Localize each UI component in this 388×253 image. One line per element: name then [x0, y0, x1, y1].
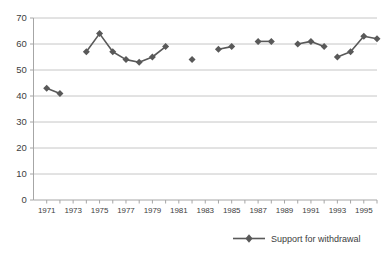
legend-label-support-for-withdrawal: Support for withdrawal	[271, 234, 361, 244]
chart-container: 010203040506070 197119731975197719791981…	[0, 0, 388, 253]
y-axis-tick-label: 40	[3, 90, 27, 101]
y-axis-tick-label: 0	[3, 194, 27, 205]
y-axis-ticks	[30, 18, 34, 200]
x-axis-ticks	[47, 200, 377, 204]
y-axis-tick-label: 30	[3, 116, 27, 127]
series-line-support-for-withdrawal	[47, 34, 377, 94]
x-axis-tick-label: 1995	[349, 206, 379, 215]
y-axis-tick-label: 60	[3, 38, 27, 49]
gridlines	[34, 18, 378, 174]
y-axis-tick-label: 20	[3, 142, 27, 153]
y-axis-tick-label: 10	[3, 168, 27, 179]
series-markers-support-for-withdrawal	[43, 30, 380, 97]
legend-marker-icon	[232, 233, 266, 244]
y-axis-tick-label: 70	[3, 12, 27, 23]
y-axis-tick-label: 50	[3, 64, 27, 75]
chart-legend: Support for withdrawal	[232, 233, 361, 244]
chart-plot-area	[0, 0, 388, 253]
